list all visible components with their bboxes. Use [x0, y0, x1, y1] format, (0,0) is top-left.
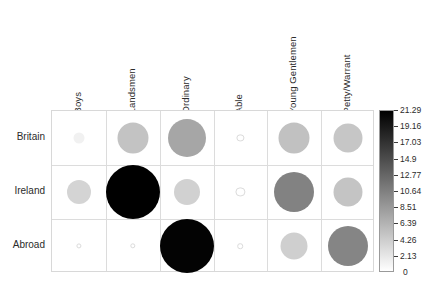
bubble-ireland-petty-warrant — [334, 178, 363, 207]
gridline-vertical — [267, 111, 268, 271]
bubble-ireland-young-gentlemen — [274, 172, 314, 212]
colorbar-tick — [394, 110, 398, 111]
bubble-ireland-boys — [67, 180, 91, 204]
colorbar-gradient — [379, 110, 394, 272]
colorbar-tick — [394, 126, 398, 127]
row-label-ireland: Ireland — [14, 186, 45, 196]
plot-panel — [51, 110, 374, 272]
colorbar-tick-label: 4.26 — [400, 235, 417, 244]
bubble-britain-boys — [73, 133, 84, 144]
colorbar-tick — [394, 256, 398, 257]
bubble-abroad-able — [238, 243, 244, 249]
colorbar-legend: 21.2919.1617.0314.912.7710.648.516.394.2… — [379, 110, 394, 272]
row-label-abroad: Abroad — [13, 240, 45, 250]
colorbar-tick-label: 2.13 — [400, 252, 417, 261]
colorbar-tick — [394, 142, 398, 143]
column-header-ordinary: Ordinary — [180, 76, 190, 113]
balloon-plot-figure: BoysLandsmenOrdinaryAbleYoung GentlemenP… — [0, 0, 424, 293]
colorbar-tick — [394, 175, 398, 176]
gridline-horizontal — [52, 219, 373, 220]
bubble-ireland-ordinary — [174, 179, 200, 205]
bubble-abroad-boys — [76, 243, 81, 248]
colorbar-tick — [394, 159, 398, 160]
colorbar-tick-label: 10.64 — [400, 187, 421, 196]
gridline-horizontal — [52, 165, 373, 166]
gridline-vertical — [321, 111, 322, 271]
colorbar-tick — [394, 240, 398, 241]
colorbar-tick-label: 0 — [403, 268, 408, 277]
colorbar-tick — [394, 223, 398, 224]
column-header-petty-warrant: Petty/Warrant — [342, 54, 352, 113]
bubble-britain-ordinary — [168, 119, 206, 157]
colorbar-tick-label: 6.39 — [400, 219, 417, 228]
colorbar-tick-label: 14.9 — [400, 154, 417, 163]
colorbar-tick — [394, 207, 398, 208]
colorbar-tick-label: 17.03 — [400, 138, 421, 147]
column-header-young-gentlemen: Young Gentlemen — [288, 36, 298, 113]
bubble-abroad-young-gentlemen — [281, 233, 308, 260]
colorbar-tick-label: 12.77 — [400, 171, 421, 180]
colorbar-tick-label: 8.51 — [400, 203, 417, 212]
bubble-britain-petty-warrant — [334, 124, 363, 153]
column-header-landsmen: Landsmen — [126, 68, 136, 113]
bubble-abroad-ordinary — [160, 219, 214, 273]
bubble-ireland-able — [236, 187, 245, 196]
row-label-britain: Britain — [17, 132, 45, 142]
bubble-britain-able — [237, 134, 244, 141]
colorbar-tick-label: 21.29 — [400, 106, 421, 115]
bubble-britain-young-gentlemen — [279, 123, 310, 154]
bubble-britain-landsmen — [117, 123, 148, 154]
colorbar-tick — [394, 191, 398, 192]
bubble-ireland-landsmen — [106, 165, 160, 219]
gridline-vertical — [214, 111, 215, 271]
bubble-abroad-petty-warrant — [328, 226, 368, 266]
colorbar-tick-label: 19.16 — [400, 122, 421, 131]
bubble-abroad-landsmen — [130, 243, 135, 248]
